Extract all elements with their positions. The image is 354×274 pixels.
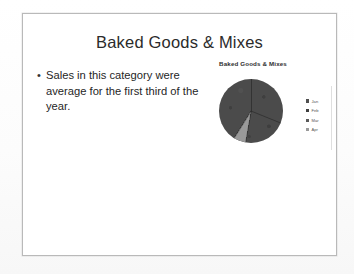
- pie-chart: Baked Goods & Mixes Jan: [201, 60, 333, 172]
- legend-label: Apr: [311, 127, 318, 132]
- chart-title: Baked Goods & Mixes: [201, 60, 305, 67]
- legend-label: Feb: [311, 108, 318, 113]
- bullet-text: Sales in this category were average for …: [46, 68, 202, 115]
- legend-swatch-icon: [306, 119, 309, 122]
- legend-item-feb: Feb: [306, 107, 333, 115]
- legend-swatch-icon: [306, 99, 309, 102]
- legend-item-jan: Jan: [306, 97, 333, 105]
- legend-swatch-icon: [306, 128, 309, 131]
- screenshot-canvas: Baked Goods & Mixes • Sales in this cate…: [0, 0, 354, 274]
- presentation-slide: Baked Goods & Mixes • Sales in this cate…: [22, 13, 337, 256]
- pie-circle: [219, 79, 283, 143]
- legend-item-apr: Apr: [306, 126, 333, 134]
- legend-label: Mar: [311, 118, 318, 123]
- legend-item-mar: Mar: [306, 116, 333, 124]
- chart-frame-edge: [331, 86, 332, 150]
- pie-graphic: [219, 79, 283, 143]
- bullet-marker-icon: •: [37, 68, 46, 84]
- chart-legend: Jan Feb Mar Apr: [306, 97, 333, 135]
- legend-swatch-icon: [306, 109, 309, 112]
- page-title: Baked Goods & Mixes: [23, 33, 336, 52]
- list-item: • Sales in this category were average fo…: [37, 68, 202, 115]
- slide-body-text: • Sales in this category were average fo…: [37, 68, 202, 115]
- legend-label: Jan: [311, 99, 318, 104]
- scan-noise-overlay: [219, 79, 283, 143]
